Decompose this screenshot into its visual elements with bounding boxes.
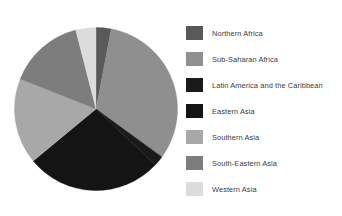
legend-item-label: Western Asia <box>212 185 257 194</box>
legend-item[interactable]: Sub-Saharan Africa <box>186 46 342 72</box>
legend-item-label: Northern Africa <box>212 29 263 38</box>
legend-swatch-icon <box>186 26 203 40</box>
legend-item[interactable]: Latin America and the Caribbean <box>186 72 342 98</box>
legend-swatch-icon <box>186 130 203 144</box>
legend-item[interactable]: Western Asia <box>186 176 342 202</box>
legend-swatch-icon <box>186 78 203 92</box>
legend-swatch-icon <box>186 182 203 196</box>
legend-item-label: Eastern Asia <box>212 107 255 116</box>
pie-chart-svg <box>14 27 178 191</box>
legend-item[interactable]: Eastern Asia <box>186 98 342 124</box>
chart-legend: Northern AfricaSub-Saharan AfricaLatin A… <box>186 20 342 202</box>
legend-item[interactable]: South-Eastern Asia <box>186 150 342 176</box>
legend-item-label: Sub-Saharan Africa <box>212 55 278 64</box>
legend-item-label: Southern Asia <box>212 133 259 142</box>
legend-item-label: South-Eastern Asia <box>212 159 277 168</box>
legend-swatch-icon <box>186 156 203 170</box>
legend-item[interactable]: Southern Asia <box>186 124 342 150</box>
legend-item-label: Latin America and the Caribbean <box>212 81 323 90</box>
pie-chart-plot-area <box>14 27 178 191</box>
legend-swatch-icon <box>186 104 203 118</box>
pie-chart-figure: Northern AfricaSub-Saharan AfricaLatin A… <box>0 0 342 216</box>
legend-swatch-icon <box>186 52 203 66</box>
legend-item[interactable]: Northern Africa <box>186 20 342 46</box>
